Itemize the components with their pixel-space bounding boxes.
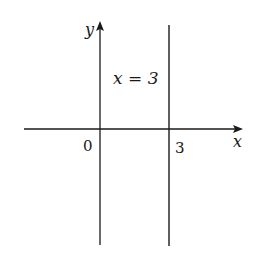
line-equation-text: x = 3 [113,68,158,88]
y-axis-label: y [84,20,95,39]
tick-label-3: 3 [175,139,185,157]
x-axis-label: x [233,132,242,151]
line-equation-label: x = 3 [113,68,158,88]
origin-label: 0 [83,137,93,155]
coordinate-plane: y x 0 3 x = 3 [0,0,256,261]
